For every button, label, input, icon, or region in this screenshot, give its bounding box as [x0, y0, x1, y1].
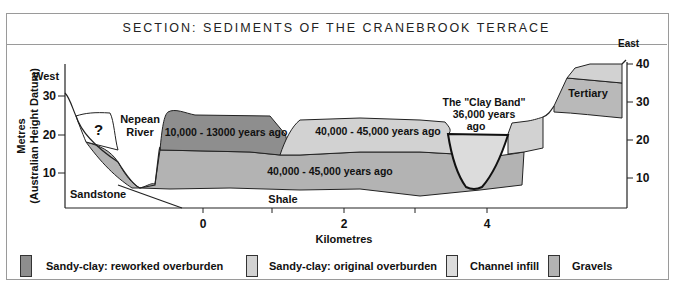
legend-label: Channel infill: [470, 260, 539, 272]
east-label: East: [618, 38, 640, 49]
left-tick-20: 20: [43, 128, 57, 142]
sandstone-label: Sandstone: [70, 188, 126, 200]
left-ticks: 30 20 10: [43, 89, 65, 180]
right-tick-40: 40: [636, 57, 650, 71]
right-ticks: 40 30 20 10: [627, 57, 650, 185]
clay-band-label-2: 36,000 years: [453, 108, 516, 120]
shale-label: Shale: [268, 193, 297, 205]
x-axis-label: Kilometres: [316, 233, 373, 245]
right-tick-20: 20: [636, 133, 650, 147]
left-tick-10: 10: [43, 166, 57, 180]
clay-band-label-3: ago: [467, 120, 486, 132]
bottom-ticks: [203, 208, 487, 213]
cross-section-diagram: 30 20 10 40 30 20 10 0 2 4 Kilometres Me…: [0, 0, 674, 285]
legend-label: Sandy-clay: original overburden: [269, 260, 437, 272]
swatch-gravels-icon: [548, 255, 560, 277]
y-axis-label: Metres: [15, 118, 27, 153]
reworked-age-label: 10,000 - 13000 years ago: [165, 126, 288, 138]
y-axis-sublabel: (Australian Height Datum): [28, 68, 40, 204]
right-tick-10: 10: [636, 171, 650, 185]
legend-label: Sandy-clay: reworked overburden: [46, 260, 223, 272]
x-tick-2: 2: [341, 217, 348, 231]
swatch-original-icon: [246, 255, 258, 277]
original-age-label: 40,000 - 45,000 years ago: [315, 125, 441, 137]
nepean-river-label-2: River: [126, 126, 154, 138]
swatch-reworked-icon: [20, 255, 32, 277]
west-label: West: [33, 70, 59, 82]
clay-band-label: The "Clay Band": [443, 96, 526, 108]
swatch-channel-icon: [446, 255, 458, 277]
legend-item-reworked: Sandy-clay: reworked overburden: [20, 255, 223, 277]
x-tick-0: 0: [200, 217, 207, 231]
nepean-river-label: Nepean: [120, 113, 160, 125]
x-tick-4: 4: [484, 217, 491, 231]
gravels-age-label: 40,000 - 45,000 years ago: [267, 165, 393, 177]
right-tick-30: 30: [636, 95, 650, 109]
legend-label: Gravels: [572, 260, 612, 272]
tertiary-label: Tertiary: [568, 87, 608, 99]
legend-item-channel: Channel infill: [446, 255, 539, 277]
left-tick-30: 30: [43, 89, 57, 103]
legend-item-gravels: Gravels: [548, 255, 612, 277]
legend-item-original: Sandy-clay: original overburden: [246, 255, 437, 277]
original-overburden-east: [508, 117, 543, 154]
question-mark: ?: [94, 121, 103, 138]
